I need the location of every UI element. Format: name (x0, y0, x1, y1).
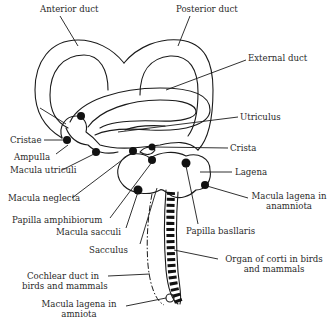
label-cristae: Cristae (10, 135, 42, 145)
leader-ampulla (56, 145, 68, 154)
label-sacculus: Sacculus (89, 245, 128, 255)
leader-papilla-amphibiorum (110, 162, 152, 218)
papilla-amphibiorum-dot (148, 156, 156, 164)
label-anterior-duct: Anterior duct (40, 4, 98, 14)
leader-anterior-duct (60, 16, 78, 46)
label-posterior-duct: Posterior duct (176, 4, 238, 14)
leader-sacculus (140, 188, 157, 244)
leader-cochlear-duct (108, 274, 150, 276)
macula-neglecta-dot (129, 147, 137, 155)
crista-dot-upper (77, 112, 85, 120)
label-ampulla: Ampulla (14, 152, 50, 162)
leader-external-duct (166, 60, 246, 90)
leader-macula-lagena-amniota (126, 298, 166, 306)
label-macula-sacculi: Macula sacculi (56, 227, 121, 237)
label-macula-lagena-anamniota: Macula lagena in anamniota (250, 191, 328, 211)
cristae-dot (63, 136, 71, 144)
label-papilla-basilaris: Papilla basllaris (186, 226, 255, 236)
label-cochlear-duct: Cochlear duct in birds and mammals (22, 271, 104, 291)
label-macula-neglecta: Macula neglecta (8, 193, 80, 203)
leader-macula-sacculi (126, 192, 138, 228)
label-crista: Crista (230, 143, 256, 153)
inner-ear-diagram: Anterior duct Posterior duct External du… (0, 0, 330, 325)
label-external-duct: External duct (248, 53, 307, 63)
label-macula-utriculi: Macula utriculi (10, 165, 77, 175)
leader-organ-of-corti (174, 250, 218, 259)
macula-lagena-anamniota-dot (201, 181, 209, 189)
label-lagena: Lagena (235, 167, 267, 177)
leader-crista (154, 147, 228, 148)
label-papilla-amphibiorum: Papilla amphibiorum (12, 215, 102, 225)
leader-macula-lagena-anamniota (207, 186, 248, 198)
label-macula-lagena-amniota: Macula lagena in amniota (38, 299, 120, 319)
label-utriculus: Utriculus (240, 112, 281, 122)
organ-of-corti-stripes (170, 192, 179, 303)
label-organ-of-corti: Organ of corti in birds and mammals (218, 254, 330, 274)
leader-papilla-basilaris (186, 166, 198, 224)
sacculus-outline (118, 152, 211, 197)
